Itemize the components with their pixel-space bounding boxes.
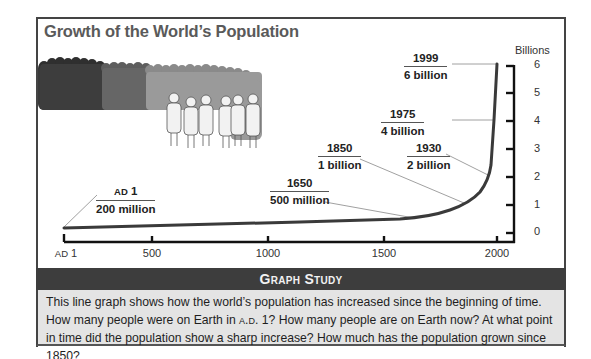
x-tick-1500: 1500 xyxy=(372,247,396,259)
x-tick-2000: 2000 xyxy=(485,247,509,259)
x-tick-500: 500 xyxy=(143,247,161,259)
y-axis-unit: Billions xyxy=(515,44,550,56)
label-1650: 1650 500 million xyxy=(270,176,329,207)
y-axis xyxy=(506,65,514,243)
y-tick-3: 3 xyxy=(527,142,547,154)
crowd-illustration xyxy=(38,57,262,148)
label-1975: 1975 4 billion xyxy=(381,107,424,138)
x-axis xyxy=(64,234,515,242)
label-1930: 1930 2 billion xyxy=(407,141,450,172)
label-1850: 1850 1 billion xyxy=(318,141,361,172)
y-tick-6: 6 xyxy=(527,58,547,70)
graph-study-heading: Graph Study xyxy=(36,268,566,290)
label-1999: 1999 6 billion xyxy=(404,51,447,82)
label-ad1: AD 1 200 million xyxy=(96,184,155,216)
graph-study-text: This line graph shows how the world’s po… xyxy=(36,290,566,346)
y-tick-2: 2 xyxy=(527,170,547,182)
y-tick-4: 4 xyxy=(527,114,547,126)
y-tick-1: 1 xyxy=(527,198,547,210)
y-tick-0: 0 xyxy=(527,225,547,237)
y-tick-5: 5 xyxy=(527,86,547,98)
x-tick-1000: 1000 xyxy=(256,247,280,259)
x-tick-ad1: AD 1 xyxy=(55,247,77,259)
